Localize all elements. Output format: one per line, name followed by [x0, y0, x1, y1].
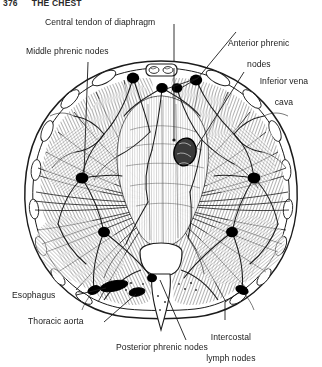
label-posterior-phrenic-nodes: Posterior phrenic nodes [92, 342, 232, 352]
label-intercostal-line1: Intercostal [211, 332, 251, 342]
label-anterior-phrenic-line1: Anterior phrenic [228, 38, 289, 48]
label-middle-phrenic-nodes: Middle phrenic nodes [26, 46, 109, 56]
label-central-tendon-of-diaphragm: Central tendon of diaphragm [45, 17, 155, 27]
node-posterior-phrenic-right [226, 227, 238, 237]
node-posterior-phrenic-mid [147, 274, 157, 282]
label-ivc-line1: Inferior vena [260, 76, 308, 86]
node-anterior-phrenic-left [127, 73, 139, 84]
label-inferior-vena-cava: Inferior vena cava [240, 66, 318, 118]
node-middle-phrenic-right [248, 172, 261, 183]
node-anterior-phrenic-mid [156, 83, 168, 93]
label-intercostal-line2: lymph nodes [206, 353, 255, 363]
label-thoracic-aorta: Thoracic aorta [28, 316, 84, 326]
node-posterior-phrenic-left [98, 227, 110, 237]
node-anterior-phrenic-mid2 [172, 83, 183, 93]
node-middle-phrenic-left [76, 172, 89, 183]
label-ivc-line2: cava [275, 97, 293, 107]
sternum [146, 64, 177, 76]
label-esophagus: Esophagus [12, 290, 55, 300]
